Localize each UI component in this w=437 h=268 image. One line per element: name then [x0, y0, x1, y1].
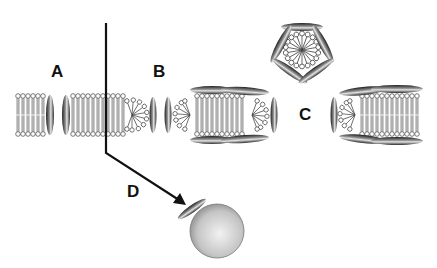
- label-a: A: [51, 63, 63, 80]
- bilayer-disc-c: [331, 85, 424, 146]
- peptide-helix: [46, 95, 54, 135]
- micelle-assembly: [268, 23, 337, 86]
- vesicle: [190, 204, 244, 258]
- peptide-helix: [150, 97, 157, 133]
- membrane-diagram: A B C D: [0, 0, 437, 268]
- bilayer-segment-a: [62, 94, 157, 137]
- bilayer-segment-b: [165, 85, 278, 144]
- bilayer-segment-left: [16, 94, 54, 137]
- peptide-helix: [62, 95, 70, 135]
- peptide-helix: [371, 85, 423, 93]
- diagram-canvas: [0, 0, 437, 268]
- label-c: C: [299, 106, 311, 123]
- vesicle-d: [176, 196, 244, 258]
- peptide-helix: [165, 97, 172, 133]
- peptide-helix: [331, 97, 338, 133]
- peptide-helix: [371, 137, 423, 145]
- peptide-helix: [271, 97, 278, 133]
- label-b: B: [153, 63, 165, 80]
- label-d: D: [127, 183, 139, 200]
